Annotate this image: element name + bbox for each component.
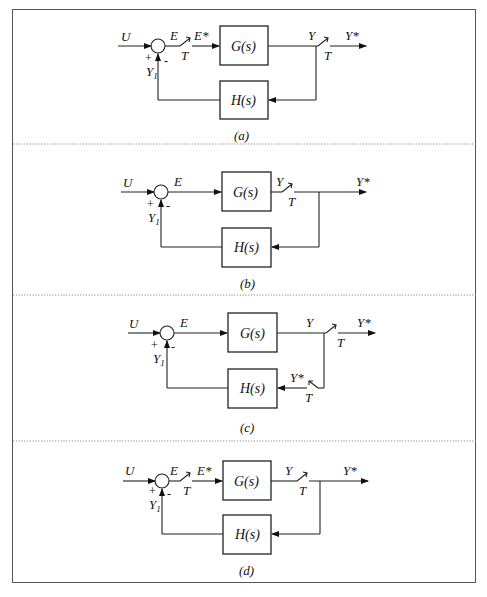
signal-y: Y xyxy=(276,174,285,189)
sampler-switch xyxy=(282,184,292,192)
signal-y-star: Y* xyxy=(343,463,357,478)
block-g-label: G(s) xyxy=(233,185,258,201)
block-h-label: H(s) xyxy=(230,93,256,109)
sampler-period: T xyxy=(288,194,296,209)
plus-sign: + xyxy=(151,338,158,352)
signal-y: Y xyxy=(308,28,317,43)
minus-sign: - xyxy=(166,199,170,213)
block-g-label: G(s) xyxy=(231,39,256,55)
minus-sign: - xyxy=(164,54,168,68)
signal-y: Y xyxy=(285,463,294,478)
minus-sign: - xyxy=(171,340,175,354)
panel-d: U + - Y1 E T E* G(s) Y T Y* H(s) (d) xyxy=(123,461,368,578)
signal-e-star: E* xyxy=(193,28,209,43)
panel-caption: (d) xyxy=(239,563,254,578)
summing-junction xyxy=(151,39,165,53)
plus-sign: + xyxy=(145,51,152,65)
sampler-period: T xyxy=(183,483,191,498)
sampler-period: T xyxy=(337,335,345,350)
sampler-switch xyxy=(326,325,336,333)
signal-y-star: Y* xyxy=(357,315,371,330)
plus-sign: + xyxy=(147,197,154,211)
minus-sign: - xyxy=(167,487,171,501)
block-h-label: H(s) xyxy=(233,240,259,256)
signal-y1: Y1 xyxy=(146,64,158,81)
plus-sign: + xyxy=(149,484,156,498)
block-h-label: H(s) xyxy=(234,527,260,543)
sampler-period: T xyxy=(299,483,307,498)
panel-b: U + - Y1 E G(s) Y T Y* H(s) (b) xyxy=(121,172,370,291)
signal-e: E xyxy=(179,315,188,330)
sampler-switch xyxy=(180,38,190,46)
signal-y: Y xyxy=(306,315,315,330)
signal-e: E xyxy=(169,463,178,478)
panel-c: U + - Y1 E G(s) Y T Y* Y* T H(s) (c) xyxy=(128,313,375,435)
signal-feedback-y-star: Y* xyxy=(290,370,304,385)
block-g-label: G(s) xyxy=(240,326,265,342)
signal-e-star: E* xyxy=(196,463,212,478)
summing-junction xyxy=(160,326,174,340)
sampler-period: T xyxy=(324,48,332,63)
sampler-period: T xyxy=(181,48,189,63)
signal-u: U xyxy=(123,175,134,190)
sampler-switch xyxy=(180,473,190,481)
signal-y1: Y1 xyxy=(153,351,165,368)
signal-y-star: Y* xyxy=(356,174,370,189)
block-h-label: H(s) xyxy=(239,381,265,397)
summing-junction xyxy=(155,474,169,488)
panel-caption: (a) xyxy=(234,128,249,143)
signal-e: E xyxy=(169,28,178,43)
sampler-period: T xyxy=(305,390,313,405)
signal-u: U xyxy=(129,316,140,331)
signal-u: U xyxy=(121,29,132,44)
signal-y1: Y1 xyxy=(149,497,161,514)
block-g-label: G(s) xyxy=(234,474,259,490)
signal-u: U xyxy=(125,463,136,478)
panel-caption: (b) xyxy=(240,276,255,291)
sampler-switch xyxy=(309,381,318,388)
block-diagram-figure: U + - Y1 E T E* G(s) Y T Y* H(s) (a) U +… xyxy=(0,0,487,597)
summing-junction xyxy=(154,185,168,199)
sampler-switch xyxy=(297,473,307,481)
signal-y-star: Y* xyxy=(345,28,359,43)
panel-a: U + - Y1 E T E* G(s) Y T Y* H(s) (a) xyxy=(118,26,366,143)
signal-y1: Y1 xyxy=(148,210,160,227)
panel-caption: (c) xyxy=(240,420,254,435)
signal-e: E xyxy=(173,174,182,189)
